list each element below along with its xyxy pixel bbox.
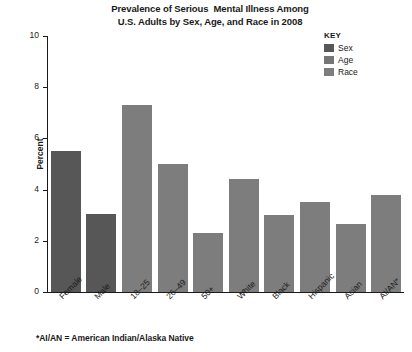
bar-group bbox=[48, 36, 404, 292]
bar bbox=[229, 179, 259, 292]
bar bbox=[336, 224, 366, 292]
y-tick-mark bbox=[43, 138, 47, 139]
chart-title: Prevalence of Serious Mental Illness Amo… bbox=[60, 3, 360, 28]
chart-footnote: *AI/AN = American Indian/Alaska Native bbox=[36, 333, 194, 343]
chart-title-line-2: U.S. Adults by Sex, Age, and Race in 200… bbox=[118, 16, 303, 27]
y-tick-label: 10 bbox=[15, 31, 39, 40]
y-tick-label: 6 bbox=[15, 133, 39, 142]
bar bbox=[86, 214, 116, 292]
bar bbox=[122, 105, 152, 292]
y-tick-label: 2 bbox=[15, 236, 39, 245]
bar bbox=[158, 164, 188, 292]
bar-chart: Prevalence of Serious Mental Illness Amo… bbox=[0, 0, 412, 352]
y-axis-title: Percent bbox=[35, 138, 45, 169]
y-tick-mark bbox=[43, 241, 47, 242]
bar bbox=[264, 215, 294, 292]
y-tick-label: 4 bbox=[15, 185, 39, 194]
y-tick-label: 8 bbox=[15, 82, 39, 91]
y-tick-mark bbox=[43, 87, 47, 88]
y-tick-mark bbox=[43, 292, 47, 293]
plot-area: Percent 0246810 bbox=[47, 36, 404, 292]
y-tick-label: 0 bbox=[15, 287, 39, 296]
bar bbox=[51, 151, 81, 292]
y-tick-mark bbox=[43, 190, 47, 191]
chart-title-line-1: Prevalence of Serious Mental Illness Amo… bbox=[111, 3, 309, 14]
y-tick-mark bbox=[43, 36, 47, 37]
